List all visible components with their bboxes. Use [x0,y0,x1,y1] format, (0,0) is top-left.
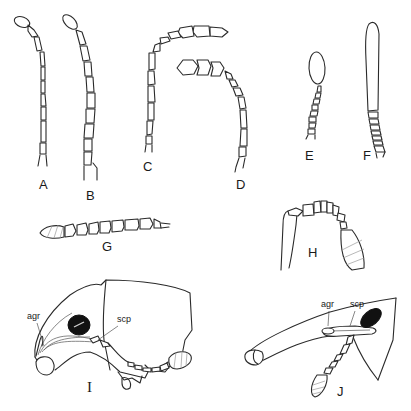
panel-label-h: H [308,246,317,259]
panel-label-c: C [143,160,152,173]
panel-d-antenna-drawing [177,60,247,172]
panel-label-j: J [337,385,344,398]
panel-e-antenna-drawing [306,52,326,139]
panel-h-antenna-drawing [281,201,364,270]
panel-b-antenna-drawing [60,12,97,180]
panel-j-head-drawing [245,298,396,397]
panel-g-antenna-drawing [40,218,170,238]
figure-drawings [0,0,411,411]
panel-label-d: D [236,178,245,191]
panel-label-g: G [102,240,112,253]
panel-label-b: B [86,189,95,202]
panel-label-f: F [363,149,371,162]
annotation-i-scp: scp [117,315,131,324]
panel-label-a: A [39,178,48,191]
annotation-i-agr: agr [27,312,40,321]
panel-label-e: E [305,149,314,162]
panel-f-antenna-drawing [366,22,385,158]
panel-c-antenna-drawing [145,26,228,152]
annotation-j-scp: scp [350,300,364,309]
panel-a-antenna-drawing [13,15,47,166]
panel-i-head-drawing [35,280,192,389]
annotation-j-agr: agr [321,300,334,309]
panel-label-i: I [87,380,92,395]
scientific-figure: A B C D E F G H I J agr scp agr scp [0,0,411,411]
